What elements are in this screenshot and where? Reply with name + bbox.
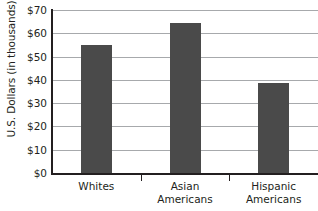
gridline [52, 10, 318, 11]
y-axis-tick-label: $60 [3, 27, 47, 39]
x-axis-line [51, 173, 318, 175]
y-axis-tick-label: $50 [3, 51, 47, 63]
x-axis-category-label: Whites [52, 180, 141, 193]
bar-chart: U.S. Dollars (in thousands) $70$60$50$40… [0, 0, 318, 211]
y-axis-tick-label: $40 [3, 74, 47, 86]
x-axis-category-label: HispanicAmericans [229, 180, 318, 206]
x-axis-category-labels: WhitesAsianAmericansHispanicAmericans [52, 180, 318, 211]
y-axis-tick-label: $0 [3, 167, 47, 179]
y-axis-tick-label: $10 [3, 144, 47, 156]
y-axis-tick-label: $30 [3, 97, 47, 109]
y-axis-tick-labels: $70$60$50$40$30$20$10$0 [0, 0, 47, 211]
y-axis-line [51, 9, 53, 174]
y-axis-tick-label: $20 [3, 120, 47, 132]
bar [170, 23, 201, 173]
x-axis-tick [141, 175, 142, 181]
bar [81, 45, 112, 173]
bar [258, 83, 289, 173]
y-axis-tick-label: $70 [3, 4, 47, 16]
plot-area [52, 10, 318, 173]
x-axis-category-label: AsianAmericans [141, 180, 230, 206]
x-axis-tick [229, 175, 230, 181]
